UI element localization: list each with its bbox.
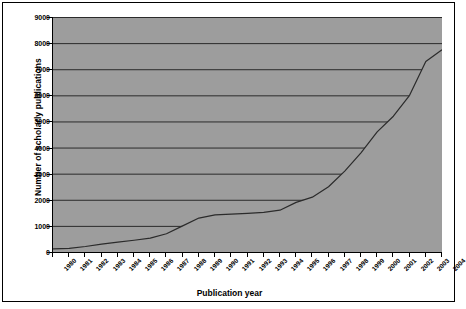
y-tick-label: 5000 (4, 118, 50, 125)
x-tick-label: 1983 (111, 257, 126, 272)
y-tick-label: 3000 (4, 170, 50, 177)
x-tick-label: 1991 (241, 257, 256, 272)
x-tick-label: 1993 (273, 257, 288, 272)
x-tick-mark (311, 253, 312, 257)
y-tick-label: 6000 (4, 92, 50, 99)
x-tick-label: 1986 (159, 257, 174, 272)
y-tick-label: 1000 (4, 222, 50, 229)
x-tick-label: 1987 (176, 257, 191, 272)
x-tick-mark (101, 253, 102, 257)
x-tick-label: 1997 (338, 257, 353, 272)
x-tick-mark (68, 253, 69, 257)
x-tick-label: 1984 (127, 257, 142, 272)
x-tick-mark (149, 253, 150, 257)
x-tick-mark (409, 253, 410, 257)
x-axis-title: Publication year (0, 288, 459, 298)
x-axis-ticks: 1980198119821983198419851986198719881989… (52, 253, 441, 289)
x-tick-label: 1982 (95, 257, 110, 272)
x-tick-mark (247, 253, 248, 257)
y-axis-ticks: 0100020003000400050006000700080009000 (0, 0, 50, 309)
y-tick-label: 0 (4, 249, 50, 256)
x-tick-mark (117, 253, 118, 257)
x-tick-label: 1981 (78, 257, 93, 272)
y-tick-label: 7000 (4, 66, 50, 73)
area-fill (53, 50, 442, 252)
plot-area (52, 17, 442, 253)
x-tick-mark (441, 253, 442, 257)
x-tick-mark (182, 253, 183, 257)
x-tick-label: 1992 (257, 257, 272, 272)
x-tick-mark (165, 253, 166, 257)
x-tick-mark (392, 253, 393, 257)
y-tick-label: 4000 (4, 144, 50, 151)
x-tick-label: 2000 (386, 257, 401, 272)
x-tick-mark (425, 253, 426, 257)
x-tick-label: 1994 (289, 257, 304, 272)
x-tick-mark (214, 253, 215, 257)
x-tick-label: 2002 (419, 257, 434, 272)
x-tick-mark (328, 253, 329, 257)
x-tick-label: 1999 (370, 257, 385, 272)
x-tick-mark (344, 253, 345, 257)
x-tick-label: 1998 (354, 257, 369, 272)
y-tick-label: 8000 (4, 40, 50, 47)
x-tick-label: 1995 (305, 257, 320, 272)
x-tick-label: 1989 (208, 257, 223, 272)
series-area-chart (53, 17, 442, 252)
x-tick-mark (295, 253, 296, 257)
x-tick-label: 2001 (403, 257, 418, 272)
x-tick-label: 1980 (62, 257, 77, 272)
x-tick-label: 1988 (192, 257, 207, 272)
x-tick-mark (230, 253, 231, 257)
y-tick-label: 9000 (4, 14, 50, 21)
x-tick-mark (52, 253, 53, 257)
x-tick-mark (133, 253, 134, 257)
x-tick-label: 1996 (322, 257, 337, 272)
x-tick-label: 1985 (143, 257, 158, 272)
x-tick-mark (263, 253, 264, 257)
x-tick-mark (360, 253, 361, 257)
x-tick-label: 1990 (224, 257, 239, 272)
y-tick-label: 2000 (4, 196, 50, 203)
x-tick-mark (279, 253, 280, 257)
x-tick-mark (198, 253, 199, 257)
x-tick-mark (84, 253, 85, 257)
x-tick-mark (376, 253, 377, 257)
